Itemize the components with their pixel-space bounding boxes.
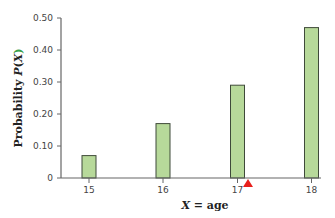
bar-18	[305, 28, 319, 178]
bar-16	[156, 124, 170, 178]
y-tick-label: 0.40	[33, 45, 53, 55]
y-tick-label: 0.10	[33, 141, 53, 151]
mean-triangle-marker	[243, 179, 253, 187]
x-tick-label: 17	[232, 185, 243, 195]
x-axis-ticks: 15161718	[83, 178, 317, 195]
y-axis-ticks: 00.100.200.300.400.50	[33, 13, 61, 183]
bars	[82, 28, 319, 178]
y-tick-label: 0.50	[33, 13, 53, 23]
y-tick-label: 0.30	[33, 77, 53, 87]
bar-chart: Probability P(X) 00.100.200.300.400.50 1…	[0, 0, 335, 218]
bar-15	[82, 156, 96, 178]
x-axis-title: X = age	[180, 199, 228, 212]
bar-17	[231, 85, 245, 178]
x-tick-label: 16	[157, 185, 169, 195]
y-axis-title: Probability P(X)	[12, 48, 25, 147]
x-tick-label: 18	[306, 185, 318, 195]
y-tick-label: 0.20	[33, 109, 53, 119]
x-tick-label: 15	[83, 185, 94, 195]
y-tick-label: 0	[47, 173, 53, 183]
